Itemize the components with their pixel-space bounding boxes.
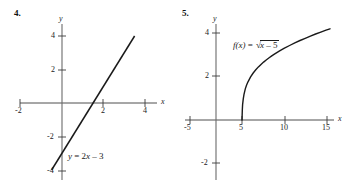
y-tick-label-4: 4 bbox=[205, 29, 209, 37]
y-tick-label-2: 2 bbox=[205, 72, 209, 80]
y-tick-label--4: -4 bbox=[47, 167, 54, 175]
x-tick-label-2: 2 bbox=[101, 107, 105, 115]
radical-expression: √x – 5 bbox=[255, 40, 278, 50]
radicand: x – 5 bbox=[260, 40, 279, 50]
x-tick-label--5: -5 bbox=[184, 124, 191, 132]
x-tick-label-4: 4 bbox=[143, 107, 147, 115]
x-axis-label: x bbox=[338, 115, 342, 123]
equation-constant: 3 bbox=[99, 151, 104, 161]
function-argument: (x) bbox=[236, 40, 246, 50]
x-tick-label-10: 10 bbox=[280, 124, 288, 132]
y-tick-label--2: -2 bbox=[201, 159, 208, 167]
y-axis-label: y bbox=[59, 15, 63, 23]
y-tick-label-2: 2 bbox=[51, 66, 55, 74]
equation-label-4: y = 2x – 3 bbox=[68, 152, 104, 161]
exercise-panel-4: 4. -2 2 4 4 2 -2 -4 x y bbox=[0, 0, 178, 185]
x-tick-label--2: -2 bbox=[15, 107, 22, 115]
radicand-constant: 5 bbox=[273, 40, 278, 50]
y-tick-label-4: 4 bbox=[51, 32, 55, 40]
equation-label-5: f(x) = √x – 5 bbox=[233, 40, 279, 50]
x-tick-label-15: 15 bbox=[322, 124, 330, 132]
exercise-panel-5: 5. -5 5 10 15 4 2 -2 x y f( bbox=[178, 0, 357, 185]
x-tick-label-5: 5 bbox=[239, 124, 243, 132]
x-axis-label: x bbox=[161, 98, 165, 106]
y-tick-label--2: -2 bbox=[47, 133, 54, 141]
y-axis-label: y bbox=[213, 15, 217, 23]
